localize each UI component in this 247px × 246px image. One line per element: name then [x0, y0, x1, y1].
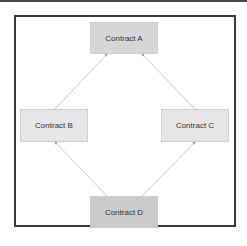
node-label: Contract C — [176, 121, 214, 130]
edge-c-to-a — [142, 54, 195, 109]
node-label: Contract A — [105, 34, 142, 43]
edge-d-to-c — [142, 142, 195, 196]
node-label: Contract D — [105, 208, 143, 217]
node-contract-c: Contract C — [161, 109, 229, 142]
edge-d-to-b — [55, 142, 107, 196]
edge-b-to-a — [55, 54, 107, 109]
node-contract-b: Contract B — [20, 109, 88, 142]
node-label: Contract B — [35, 121, 73, 130]
node-contract-d: Contract D — [90, 196, 158, 228]
node-contract-a: Contract A — [90, 22, 158, 54]
